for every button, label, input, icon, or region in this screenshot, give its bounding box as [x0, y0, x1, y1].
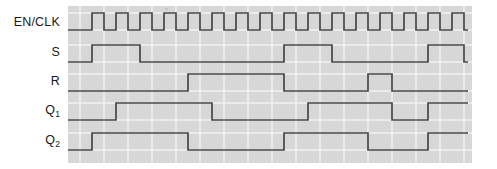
signal-label-s: S [0, 46, 60, 59]
signal-label-en-clk: EN/CLK [0, 16, 60, 29]
signal-label-r: R [0, 75, 60, 88]
waveform-grid-background [68, 6, 472, 163]
scan-speckle [165, 8, 168, 10]
signal-label-q2-subscript: 2 [55, 139, 60, 149]
grid-lines [68, 6, 472, 163]
timing-diagram-figure: EN/CLK S R Q1 Q2 [0, 0, 497, 169]
signal-label-q2-base: Q [45, 133, 55, 147]
signal-label-q1-subscript: 1 [55, 109, 60, 119]
signal-label-q1: Q1 [0, 104, 60, 117]
signal-label-q1-base: Q [45, 103, 55, 117]
signal-label-q2: Q2 [0, 134, 60, 147]
